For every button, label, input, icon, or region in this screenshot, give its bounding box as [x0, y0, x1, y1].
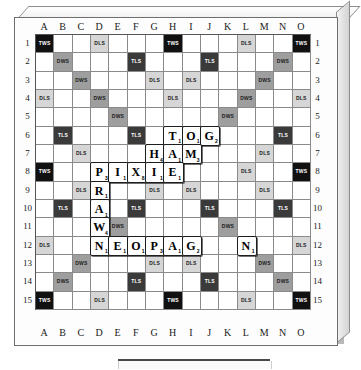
board-square-A1[interactable]: TWS — [36, 35, 54, 53]
board-square-E9[interactable] — [109, 182, 127, 200]
board-square-M6[interactable] — [256, 127, 274, 145]
board-square-B4[interactable] — [54, 90, 72, 108]
board-square-J9[interactable] — [201, 182, 219, 200]
board-square-M13[interactable]: DWS — [256, 255, 274, 273]
letter-tile-N-L12[interactable]: N1 — [237, 236, 257, 256]
board-square-G8[interactable]: I1 — [146, 163, 164, 181]
board-square-F2[interactable]: TLS — [128, 53, 146, 71]
board-square-F7[interactable] — [128, 145, 146, 163]
board-square-G7[interactable]: DLSH4 — [146, 145, 164, 163]
board-square-C10[interactable] — [73, 200, 91, 218]
board-square-L15[interactable]: DLS — [238, 292, 256, 310]
board-square-D10[interactable]: A1 — [91, 200, 109, 218]
board-square-L2[interactable] — [238, 53, 256, 71]
board-square-J8[interactable] — [201, 163, 219, 181]
board-square-C15[interactable] — [73, 292, 91, 310]
board-square-F13[interactable] — [128, 255, 146, 273]
board-square-K4[interactable] — [219, 90, 237, 108]
board-square-B5[interactable] — [54, 108, 72, 126]
board-square-G10[interactable] — [146, 200, 164, 218]
board-square-E3[interactable] — [109, 72, 127, 90]
board-square-O8[interactable]: TWS — [293, 163, 311, 181]
board-square-D1[interactable]: DLS — [91, 35, 109, 53]
board-square-H6[interactable]: T1 — [164, 127, 182, 145]
board-square-C6[interactable] — [73, 127, 91, 145]
scrabble-board[interactable]: ABCDEFGHIJKLMNO ABCDEFGHIJKLMNO 12345678… — [20, 20, 330, 340]
board-square-O5[interactable] — [293, 108, 311, 126]
board-square-H5[interactable] — [164, 108, 182, 126]
board-square-K1[interactable] — [219, 35, 237, 53]
board-square-K7[interactable] — [219, 145, 237, 163]
board-square-N5[interactable] — [274, 108, 292, 126]
board-square-M15[interactable] — [256, 292, 274, 310]
board-square-L12[interactable]: DWSN1 — [238, 237, 256, 255]
board-square-K3[interactable] — [219, 72, 237, 90]
board-square-K13[interactable] — [219, 255, 237, 273]
board-square-N3[interactable] — [274, 72, 292, 90]
board-square-F11[interactable] — [128, 218, 146, 236]
letter-tile-G-I12[interactable]: G2 — [182, 236, 202, 256]
board-square-I12[interactable]: G2 — [183, 237, 201, 255]
board-square-G4[interactable] — [146, 90, 164, 108]
board-square-E8[interactable]: I1 — [109, 163, 127, 181]
board-square-J2[interactable]: TLS — [201, 53, 219, 71]
board-square-A8[interactable]: TWS — [36, 163, 54, 181]
board-square-B14[interactable]: DWS — [54, 273, 72, 291]
letter-tile-P-D8[interactable]: P3 — [90, 162, 110, 182]
board-square-A11[interactable] — [36, 218, 54, 236]
board-grid[interactable]: TWSDLSTWSDLSTWSDWSTLSTLSDWSDWSDLSDLSDWSD… — [35, 34, 311, 310]
board-square-L9[interactable] — [238, 182, 256, 200]
board-square-K15[interactable] — [219, 292, 237, 310]
letter-tile-T-H6[interactable]: T1 — [163, 126, 183, 146]
board-square-G12[interactable]: P3 — [146, 237, 164, 255]
board-square-K6[interactable] — [219, 127, 237, 145]
board-square-F14[interactable]: TLS — [128, 273, 146, 291]
board-square-N12[interactable] — [274, 237, 292, 255]
board-square-D15[interactable]: DLS — [91, 292, 109, 310]
board-square-I15[interactable] — [183, 292, 201, 310]
board-square-J7[interactable] — [201, 145, 219, 163]
board-square-G9[interactable]: DLS — [146, 182, 164, 200]
board-square-A5[interactable] — [36, 108, 54, 126]
board-square-G1[interactable] — [146, 35, 164, 53]
board-square-M8[interactable] — [256, 163, 274, 181]
board-square-F12[interactable]: O1 — [128, 237, 146, 255]
board-square-D2[interactable] — [91, 53, 109, 71]
board-square-J4[interactable] — [201, 90, 219, 108]
letter-tile-A-H7[interactable]: A1 — [163, 144, 183, 164]
board-square-A12[interactable]: DLS — [36, 237, 54, 255]
board-square-M11[interactable] — [256, 218, 274, 236]
board-square-E14[interactable] — [109, 273, 127, 291]
board-square-K5[interactable]: DWS — [219, 108, 237, 126]
board-square-N7[interactable] — [274, 145, 292, 163]
board-square-E7[interactable] — [109, 145, 127, 163]
board-square-J5[interactable] — [201, 108, 219, 126]
board-square-H10[interactable] — [164, 200, 182, 218]
board-square-A4[interactable]: DLS — [36, 90, 54, 108]
board-square-I10[interactable] — [183, 200, 201, 218]
board-square-I3[interactable]: DLS — [183, 72, 201, 90]
letter-tile-X-F8[interactable]: X8 — [127, 162, 147, 182]
board-square-E11[interactable]: DWS — [109, 218, 127, 236]
letter-tile-G-J6[interactable]: G2 — [200, 126, 220, 146]
board-square-H8[interactable]: E1 — [164, 163, 182, 181]
board-square-N8[interactable] — [274, 163, 292, 181]
board-square-B2[interactable]: DWS — [54, 53, 72, 71]
board-square-J11[interactable] — [201, 218, 219, 236]
board-square-J6[interactable]: TLSG2 — [201, 127, 219, 145]
board-square-G15[interactable] — [146, 292, 164, 310]
board-square-B1[interactable] — [54, 35, 72, 53]
letter-tile-O-F12[interactable]: O1 — [127, 236, 147, 256]
board-square-O7[interactable] — [293, 145, 311, 163]
board-square-C5[interactable] — [73, 108, 91, 126]
board-square-B7[interactable] — [54, 145, 72, 163]
board-square-L11[interactable] — [238, 218, 256, 236]
board-square-H9[interactable] — [164, 182, 182, 200]
board-square-G3[interactable]: DLS — [146, 72, 164, 90]
board-square-F4[interactable] — [128, 90, 146, 108]
board-square-I8[interactable] — [183, 163, 201, 181]
board-square-H12[interactable]: DLSA1 — [164, 237, 182, 255]
board-square-E2[interactable] — [109, 53, 127, 71]
board-square-I1[interactable] — [183, 35, 201, 53]
board-square-O14[interactable] — [293, 273, 311, 291]
